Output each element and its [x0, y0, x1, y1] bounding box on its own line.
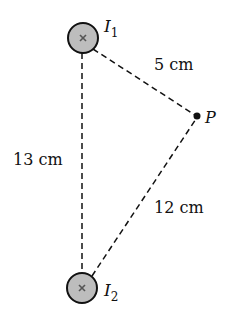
- diagram-svg: I1 I2 P 5 cm 13 cm 12 cm: [0, 0, 230, 323]
- label-i2: I2: [103, 280, 118, 304]
- distance-i1-i2: 13 cm: [13, 150, 63, 169]
- distance-i2-p: 12 cm: [154, 198, 204, 217]
- point-p: [194, 113, 201, 120]
- distance-i1-p: 5 cm: [154, 55, 193, 74]
- label-p: P: [204, 108, 216, 127]
- diagram-canvas: I1 I2 P 5 cm 13 cm 12 cm: [0, 0, 230, 323]
- wire-i2: [67, 273, 97, 303]
- label-i1: I1: [103, 16, 118, 40]
- wire-i1: [68, 23, 98, 53]
